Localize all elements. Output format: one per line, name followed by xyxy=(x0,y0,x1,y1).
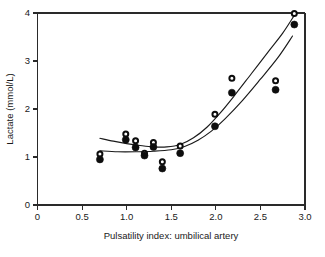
y-tick-label: 1 xyxy=(25,151,30,162)
data-point-open xyxy=(123,131,128,136)
x-tick-label: 0 xyxy=(35,211,40,222)
data-point-open xyxy=(292,11,297,16)
x-axis-label: Pulsatility index: umbilical artery xyxy=(104,230,239,241)
x-tick-label: 1.0 xyxy=(120,211,133,222)
data-point-open xyxy=(133,138,138,143)
chart-figure: 00.51.01.52.02.53.0 01234 Pulsatility in… xyxy=(0,0,325,257)
y-axis-ticks: 01234 xyxy=(25,7,38,210)
x-tick-label: 0.5 xyxy=(75,211,88,222)
y-tick-label: 3 xyxy=(25,55,30,66)
data-point-filled xyxy=(150,143,157,150)
x-tick-label: 2.5 xyxy=(254,211,267,222)
data-point-filled xyxy=(228,89,235,96)
data-point-filled xyxy=(96,156,103,163)
data-point-filled xyxy=(272,86,279,93)
data-point-filled xyxy=(132,144,139,151)
data-point-open xyxy=(273,78,278,83)
scatter-plot: 00.51.01.52.02.53.0 01234 Pulsatility in… xyxy=(0,0,325,257)
data-point-filled xyxy=(291,21,298,28)
data-point-filled xyxy=(141,152,148,159)
y-tick-label: 4 xyxy=(25,7,30,18)
x-tick-label: 3.0 xyxy=(298,211,311,222)
data-point-filled xyxy=(122,136,129,143)
data-point-filled xyxy=(159,165,166,172)
y-axis-label: Lactate (mmol/L) xyxy=(4,73,15,144)
x-tick-label: 1.5 xyxy=(165,211,178,222)
y-tick-label: 2 xyxy=(25,103,30,114)
upper-fitted-curve xyxy=(100,15,294,147)
data-point-open xyxy=(212,112,217,117)
y-tick-label: 0 xyxy=(25,199,30,210)
data-point-open xyxy=(178,143,183,148)
axis-frame xyxy=(38,13,306,205)
data-point-open xyxy=(160,159,165,164)
data-points xyxy=(96,11,297,172)
x-tick-label: 2.0 xyxy=(209,211,222,222)
fitted-curves xyxy=(100,15,294,151)
data-point-open xyxy=(229,76,234,81)
data-point-filled xyxy=(211,123,218,130)
data-point-filled xyxy=(177,150,184,157)
x-axis-ticks: 00.51.01.52.02.53.0 xyxy=(35,205,312,222)
